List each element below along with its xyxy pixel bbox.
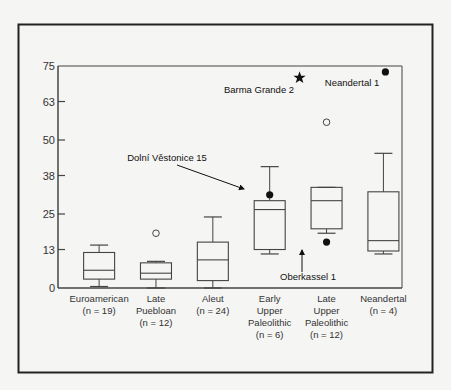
star-icon: [293, 71, 305, 83]
category-label: Paleolithic: [305, 317, 349, 328]
box-early-upper-paleolithic: [254, 167, 285, 254]
box-neandertal: [368, 68, 399, 254]
outlier-filled-circle: [382, 68, 389, 75]
dolni-arrow-icon: [177, 165, 244, 189]
category-label: Upper: [314, 305, 340, 316]
iqr-box: [197, 242, 228, 280]
annotations: Barma Grande 2 Neandertal 1 Dolní Věston…: [127, 77, 379, 282]
category-label: (n = 12): [139, 317, 172, 328]
barma-grande-label: Barma Grande 2: [224, 84, 294, 95]
chart-figure: 0132538506375 Euroamerican(n = 19)LatePu…: [0, 0, 451, 390]
dolni-vestonice-label: Dolní Věstonice 15: [127, 152, 207, 163]
boxes: [84, 68, 399, 288]
box-euroamerican: [84, 245, 115, 286]
y-tick-label: 0: [49, 282, 55, 294]
iqr-box: [368, 192, 399, 251]
category-label: Aleut: [202, 293, 224, 304]
category-label: Late: [317, 293, 336, 304]
category-label: (n = 19): [83, 305, 116, 316]
category-label: (n = 24): [196, 305, 229, 316]
box-late-puebloan: [140, 230, 171, 288]
iqr-box: [140, 263, 171, 279]
iqr-box: [311, 187, 342, 228]
box-aleut: [197, 217, 228, 288]
category-label: (n = 6): [256, 329, 284, 340]
outlier-filled-circle: [323, 239, 330, 246]
neandertal-1-label: Neandertal 1: [325, 77, 379, 88]
category-label: Early: [259, 293, 281, 304]
category-label: (n = 4): [370, 305, 398, 316]
iqr-box: [84, 252, 115, 279]
y-tick-label: 38: [43, 170, 55, 182]
category-labels: Euroamerican(n = 19)LatePuebloan(n = 12)…: [70, 293, 407, 340]
category-label: Paleolithic: [248, 317, 292, 328]
y-tick-label: 50: [43, 134, 55, 146]
category-label: Neandertal: [360, 293, 406, 304]
box-late-upper-paleolithic: [293, 71, 342, 245]
y-tick-label: 63: [43, 96, 55, 108]
y-tick-label: 75: [43, 60, 55, 72]
y-tick-label: 13: [43, 244, 55, 256]
y-tick-label: 25: [43, 208, 55, 220]
oberkassel-label: Oberkassel 1: [280, 271, 336, 282]
box-plot-chart: 0132538506375 Euroamerican(n = 19)LatePu…: [0, 0, 451, 390]
category-label: Puebloan: [136, 305, 176, 316]
category-label: Upper: [257, 305, 283, 316]
outlier-open-circle: [323, 119, 330, 126]
category-label: Late: [147, 293, 166, 304]
outlier-open-circle: [153, 230, 160, 237]
iqr-box: [254, 201, 285, 250]
category-label: (n = 12): [310, 329, 343, 340]
category-label: Euroamerican: [70, 293, 129, 304]
axes: 0132538506375: [43, 60, 402, 294]
outlier-filled-circle: [266, 191, 273, 198]
